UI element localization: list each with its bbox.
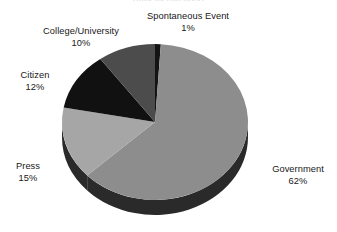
slice-label-percent: 12% (10, 82, 60, 94)
slice-label-percent: 10% (33, 38, 129, 50)
pie-chart-page: (tally by category) Spontaneous Event 1%… (0, 0, 337, 232)
slice-label-name: Citizen (10, 70, 60, 82)
slice-label-press: Press 15% (7, 161, 49, 184)
pie-top-face-group (62, 44, 248, 200)
slice-label-name: Government (262, 164, 334, 176)
slice-label-percent: 1% (139, 23, 237, 35)
slice-label-percent: 62% (262, 176, 334, 188)
slice-label-college-university: College/University 10% (33, 26, 129, 49)
slice-label-name: Press (7, 161, 49, 173)
slice-label-spontaneous-event: Spontaneous Event 1% (139, 11, 237, 34)
slice-label-name: Spontaneous Event (139, 11, 237, 23)
slice-label-citizen: Citizen 12% (10, 70, 60, 93)
slice-label-percent: 15% (7, 173, 49, 185)
slice-label-government: Government 62% (262, 164, 334, 187)
slice-label-name: College/University (33, 26, 129, 38)
